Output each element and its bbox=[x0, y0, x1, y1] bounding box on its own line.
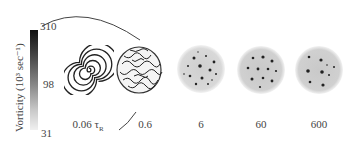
time-label-4: 60 bbox=[236, 118, 286, 130]
panel-vortex-crystal-sparse bbox=[294, 45, 344, 95]
time-label-1: 0.06 τR bbox=[63, 118, 113, 133]
panel-spiral bbox=[64, 45, 114, 95]
panel-many-vortices bbox=[176, 44, 226, 94]
colorbar-tick-max: 310 bbox=[40, 20, 57, 32]
colorbar-tick-mid: 98 bbox=[43, 78, 54, 90]
colorbar-tick-min: 31 bbox=[41, 127, 52, 139]
time-label-5: 600 bbox=[294, 118, 344, 130]
panel-turbulent bbox=[114, 44, 164, 94]
time-label-3: 6 bbox=[176, 118, 226, 130]
panel-vortex-crystal bbox=[236, 45, 286, 95]
colorbar bbox=[30, 30, 38, 130]
time-label-2: 0.6 bbox=[120, 118, 170, 130]
colorbar-axis-label: Vorticity (10³ sec⁻¹) bbox=[13, 43, 26, 132]
